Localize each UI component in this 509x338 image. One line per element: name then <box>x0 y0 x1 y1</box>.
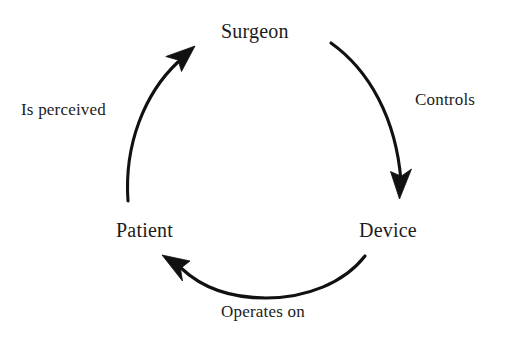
arrow-operates-on <box>162 255 365 298</box>
arrow-is-perceived <box>128 46 195 201</box>
edge-label-is-perceived: Is perceived <box>21 101 106 118</box>
arrow-controls-shaft <box>331 43 401 181</box>
arrow-is-perceived-shaft <box>128 62 178 201</box>
arrow-operates-on-shaft <box>181 256 365 298</box>
node-label-surgeon: Surgeon <box>221 21 289 41</box>
edge-label-controls: Controls <box>415 91 475 108</box>
node-label-patient: Patient <box>116 220 173 240</box>
node-label-device: Device <box>359 220 417 240</box>
edge-label-operates-on: Operates on <box>221 303 305 320</box>
cycle-diagram: Surgeon Device Patient Controls Operates… <box>0 0 509 338</box>
arrow-operates-on-head <box>162 255 190 281</box>
arrow-controls <box>331 43 412 199</box>
cycle-arrows-svg <box>0 0 509 338</box>
